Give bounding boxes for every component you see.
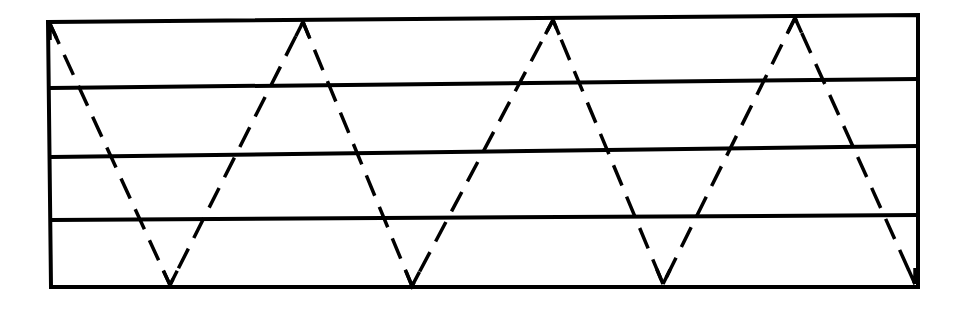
arrowhead-icon bbox=[788, 18, 802, 33]
layer-boundary-line-1 bbox=[50, 79, 918, 88]
arrowhead-icon bbox=[657, 269, 670, 284]
arrowhead-icon bbox=[406, 271, 420, 286]
arrowhead-icon bbox=[908, 268, 915, 284]
arrowhead-icon bbox=[296, 22, 309, 37]
arrowhead-icon bbox=[546, 20, 560, 35]
layer-boundary-line-3 bbox=[52, 215, 918, 220]
arrowhead-icon bbox=[50, 24, 57, 40]
layered-ray-diagram bbox=[0, 0, 960, 312]
arrowhead-icon bbox=[163, 271, 177, 286]
